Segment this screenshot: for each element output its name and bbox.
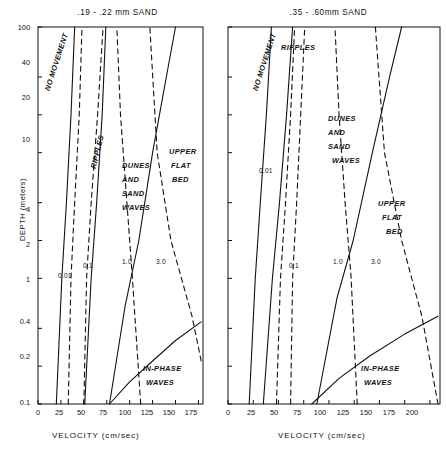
ytick-label: 0.4 xyxy=(0,317,30,326)
region-label-dunes-l2: AND xyxy=(122,174,139,185)
region-label-upper-flat-bed-l1: UPPER xyxy=(378,198,405,209)
plot-area-left xyxy=(0,0,223,458)
panel-right: .35 - .60mm SAND VELOCITY (cm/sec) 0 25 … xyxy=(223,0,446,458)
region-label-in-phase-waves-l2: WAVES xyxy=(146,377,174,388)
region-label-in-phase-waves-l1: IN-PHASE xyxy=(143,363,182,374)
ytick-label: 20 xyxy=(0,93,30,102)
curve-label-froude-3-0: 3.0 xyxy=(156,258,166,265)
ytick-label: 10 xyxy=(0,135,30,144)
curve-label-froude-1-0: 1.0 xyxy=(122,258,132,265)
region-label-dunes-l3: SAND xyxy=(328,141,351,152)
ytick-label: 40 xyxy=(0,58,30,67)
xtick-label: 175 xyxy=(178,408,204,417)
curve-label-froude-3-0: 3.0 xyxy=(371,258,381,265)
region-label-dunes-l4: WAVES xyxy=(122,202,150,213)
region-label-dunes-l1: DUNES xyxy=(328,113,356,124)
region-label-dunes-l4: WAVES xyxy=(332,155,360,166)
region-label-in-phase-waves-l1: IN-PHASE xyxy=(361,363,400,374)
region-label-upper-flat-bed-l3: BED xyxy=(172,174,189,185)
region-label-in-phase-waves-l2: WAVES xyxy=(364,377,392,388)
region-label-upper-flat-bed-l2: FLAT xyxy=(382,212,402,223)
ytick-label: 0.1 xyxy=(0,398,30,407)
curve-label-froude-1-0: 1.0 xyxy=(333,258,343,265)
curve-label-froude-0-1: 0.1 xyxy=(289,262,299,269)
ytick-label: 2 xyxy=(0,240,30,249)
region-label-dunes-l3: SAND xyxy=(122,188,145,199)
ytick-label: 4 xyxy=(0,205,30,214)
region-label-dunes-l2: AND xyxy=(328,127,345,138)
curve-label-froude-0-1: 0.1 xyxy=(83,262,93,269)
ytick-label: 1 xyxy=(0,275,30,284)
region-label-ripples: RIPPLES xyxy=(281,42,315,53)
curve-label-froude-0-01: 0.01 xyxy=(58,272,72,279)
region-label-upper-flat-bed-l3: BED xyxy=(386,226,403,237)
ytick-label: 0.2 xyxy=(0,352,30,361)
ytick-label: 100 xyxy=(0,23,30,32)
panel-left: .19 - .22 mm SAND DEPTH (meters) VELOCIT… xyxy=(0,0,223,458)
region-label-dunes-l1: DUNES xyxy=(122,160,150,171)
region-label-upper-flat-bed-l1: UPPER xyxy=(169,146,196,157)
bedform-phase-diagram-figure: .19 - .22 mm SAND DEPTH (meters) VELOCIT… xyxy=(0,0,446,458)
curve-label-froude-0-01: 0.01 xyxy=(259,167,273,174)
region-label-upper-flat-bed-l2: FLAT xyxy=(171,160,191,171)
xtick-label: 200 xyxy=(399,408,425,417)
